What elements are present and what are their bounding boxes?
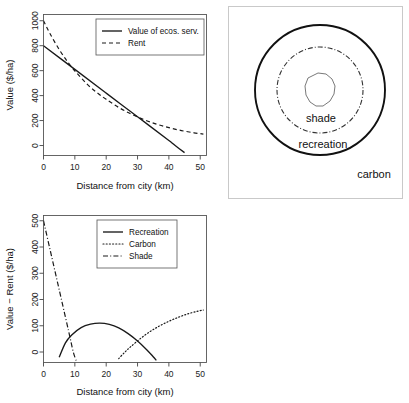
x-tick-label: 20 <box>101 369 111 379</box>
value-vs-rent-svg: 01020304050 02004006008001000 Distance f… <box>0 0 220 200</box>
legend-label: Shade <box>129 252 153 261</box>
y-axis-title: Value ($/ha) <box>4 59 15 110</box>
x-tick-label: 10 <box>70 369 80 379</box>
x-tick-label: 40 <box>164 162 174 172</box>
label-recreation: recreation <box>299 138 348 150</box>
x-axis-ticks: 01020304050 <box>41 363 205 379</box>
x-tick-label: 0 <box>41 162 46 172</box>
chart-legend: RecreationCarbonShade <box>97 220 177 268</box>
label-carbon: carbon <box>357 168 391 180</box>
x-tick-label: 40 <box>164 369 174 379</box>
chart-legend: Value of ecos. serv.Rent <box>96 19 204 55</box>
y-tick-label: 0 <box>30 349 40 354</box>
y-tick-label: 400 <box>30 240 40 254</box>
y-axis-title: Value − Rent ($/ha) <box>4 248 15 330</box>
y-tick-label: 0 <box>30 143 40 148</box>
y-tick-label: 800 <box>30 38 40 52</box>
series-value-of-ecos-serv <box>44 46 185 153</box>
chart-value-vs-rent: 01020304050 02004006008001000 Distance f… <box>0 0 220 200</box>
label-shade: shade <box>306 112 336 124</box>
x-tick-label: 10 <box>70 162 80 172</box>
figure-root: 01020304050 02004006008001000 Distance f… <box>0 0 409 403</box>
y-tick-label: 300 <box>30 266 40 280</box>
x-axis-title: Distance from city (km) <box>76 386 173 397</box>
zones-svg: shade recreation carbon <box>222 0 409 205</box>
legend-label: Rent <box>128 39 146 48</box>
y-tick-label: 400 <box>30 88 40 102</box>
chart-surplus-by-service: 01020304050 0100200300400500 Distance fr… <box>0 203 220 403</box>
y-tick-label: 200 <box>30 292 40 306</box>
legend-label: Value of ecos. serv. <box>128 27 199 36</box>
series-carbon <box>119 310 204 359</box>
x-axis-title: Distance from city (km) <box>76 180 173 191</box>
y-tick-label: 200 <box>30 113 40 127</box>
diagram-ecosystem-service-zones: shade recreation carbon <box>222 0 409 205</box>
x-tick-label: 20 <box>101 162 111 172</box>
y-tick-label: 1000 <box>30 11 40 30</box>
x-tick-label: 30 <box>133 369 143 379</box>
y-tick-label: 100 <box>30 318 40 332</box>
legend-label: Recreation <box>129 228 169 237</box>
legend-label: Carbon <box>129 240 156 249</box>
x-tick-label: 50 <box>195 162 205 172</box>
x-tick-label: 30 <box>133 162 143 172</box>
series-shade <box>44 221 77 361</box>
x-tick-label: 0 <box>41 369 46 379</box>
x-tick-label: 50 <box>195 369 205 379</box>
surplus-by-service-svg: 01020304050 0100200300400500 Distance fr… <box>0 203 220 403</box>
y-tick-label: 600 <box>30 63 40 77</box>
y-axis-ticks: 02004006008001000 <box>30 11 44 148</box>
y-axis-ticks: 0100200300400500 <box>30 213 44 354</box>
y-tick-label: 500 <box>30 213 40 227</box>
x-axis-ticks: 01020304050 <box>41 156 205 172</box>
